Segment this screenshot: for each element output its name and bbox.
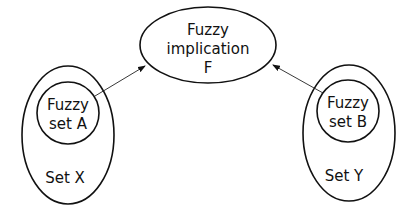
implication-label-line-3: F [204,59,213,77]
set-x-label: Set X [45,169,85,187]
implication-label-line-2: implication [167,40,250,58]
set-y-node: Fuzzy set B Set Y [303,65,395,201]
fuzzy-set-a-label-line-1: Fuzzy [47,96,89,114]
implication-node: Fuzzy implication F [140,7,276,83]
arrow-b-to-implication [273,65,323,93]
set-y-label: Set Y [325,167,364,185]
arrow-a-to-implication [95,66,145,96]
implication-label-line-1: Fuzzy [187,21,229,39]
fuzzy-set-a-label-line-2: set A [49,115,88,133]
set-x-node: Fuzzy set A Set X [22,66,114,204]
fuzzy-implication-diagram: Fuzzy implication F Fuzzy set A Set X Fu… [0,0,413,218]
fuzzy-set-b-label-line-2: set B [329,113,367,131]
fuzzy-set-b-label-line-1: Fuzzy [327,94,369,112]
